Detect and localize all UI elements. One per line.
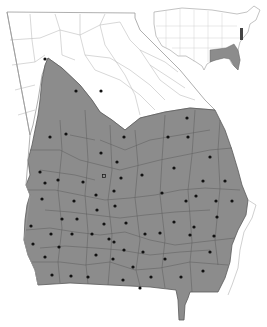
occurrence-dot	[208, 155, 211, 158]
occurrence-dot	[122, 135, 125, 138]
occurrence-dot	[143, 232, 146, 235]
occurrence-dot	[214, 199, 217, 202]
occurrence-dot	[121, 278, 124, 281]
occurrence-dot	[223, 179, 226, 182]
georgia-map	[0, 0, 267, 327]
occurrence-dot	[201, 179, 204, 182]
occurrence-dot	[70, 232, 73, 235]
occurrence-dot	[64, 132, 67, 135]
occurrence-dot	[215, 215, 218, 218]
occurrence-dot	[94, 253, 97, 256]
occurrence-dot	[230, 199, 233, 202]
occurrence-dot	[29, 224, 32, 227]
occurrence-dot	[166, 135, 169, 138]
occurrence-dot	[186, 135, 189, 138]
distribution-map	[0, 0, 267, 327]
occurrence-dot	[40, 197, 43, 200]
occurrence-dot	[172, 220, 175, 223]
occurrence-dot	[48, 135, 51, 138]
occurrence-dot	[81, 180, 84, 183]
occurrence-dot	[122, 248, 125, 251]
occurrence-dot	[99, 151, 102, 154]
occurrence-dot	[111, 257, 114, 260]
occurrence-dot	[75, 217, 78, 220]
occurrence-dot	[201, 269, 204, 272]
occurrence-dot	[188, 233, 191, 236]
occurrence-dot	[102, 222, 105, 225]
occurrence-dot	[69, 274, 72, 277]
occurrence-dot	[43, 181, 46, 184]
occurrence-dot	[99, 89, 102, 92]
occurrence-dot	[49, 232, 52, 235]
occurrence-dot	[74, 89, 77, 92]
occurrence-dot	[56, 178, 59, 181]
occurrence-dot	[212, 234, 215, 237]
occurrence-dot	[119, 176, 122, 179]
occurrence-dot	[141, 250, 144, 253]
occurrence-dot	[95, 208, 98, 211]
occurrence-dot	[149, 275, 152, 278]
occurrence-dot	[172, 166, 175, 169]
occurrence-dot	[208, 250, 211, 253]
occurrence-dot	[158, 231, 161, 234]
occurrence-dot	[194, 194, 197, 197]
occurrence-dot	[60, 217, 63, 220]
occurrence-dot	[179, 275, 182, 278]
occurrence-dot	[112, 189, 115, 192]
us-highlight-midatlantic	[240, 28, 243, 40]
occurrence-dot	[163, 257, 166, 260]
occurrence-dot	[38, 170, 41, 173]
occurrence-dot	[138, 286, 141, 289]
occurrence-dot	[115, 160, 118, 163]
occurrence-dot	[160, 191, 163, 194]
occurrence-dot	[140, 173, 143, 176]
occurrence-dot	[184, 199, 187, 202]
occurrence-dot	[57, 245, 60, 248]
occurrence-dot	[124, 221, 127, 224]
occurrence-dot	[86, 275, 89, 278]
occurrence-dot	[31, 242, 34, 245]
occurrence-dot	[107, 237, 110, 240]
occurrence-dot	[131, 265, 134, 268]
occurrence-dot	[192, 225, 195, 228]
occurrence-dot	[112, 240, 115, 243]
occurrence-dot	[185, 116, 188, 119]
occurrence-dot	[43, 57, 46, 60]
occurrence-dot	[90, 232, 93, 235]
occurrence-dot	[50, 273, 53, 276]
occurrence-dot	[113, 204, 116, 207]
occurrence-dot	[72, 199, 75, 202]
occurrence-dot	[94, 193, 97, 196]
occurrence-dot	[43, 255, 46, 258]
